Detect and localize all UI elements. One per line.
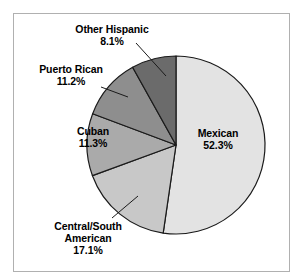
- slice-label-cuban: Cuban 11.3%: [62, 126, 124, 150]
- slice-label-central-south-american-name-line2: American: [32, 233, 144, 245]
- slice-label-other-hispanic-pct: 8.1%: [60, 36, 164, 48]
- slice-label-mexican-pct: 52.3%: [182, 140, 254, 152]
- slice-label-central-south-american: Central/South American 17.1%: [32, 221, 144, 256]
- slice-label-cuban-pct: 11.3%: [62, 138, 124, 150]
- slice-label-cuban-name: Cuban: [62, 126, 124, 138]
- slice-label-puerto-rican-pct: 11.2%: [22, 76, 120, 88]
- slice-label-mexican: Mexican 52.3%: [182, 128, 254, 152]
- slice-label-other-hispanic-name: Other Hispanic: [60, 24, 164, 36]
- slice-label-central-south-american-pct: 17.1%: [32, 245, 144, 257]
- slice-label-central-south-american-name-line1: Central/South: [32, 221, 144, 233]
- pie-chart-figure: Other Hispanic 8.1% Puerto Rican 11.2% C…: [0, 0, 302, 280]
- slice-label-other-hispanic: Other Hispanic 8.1%: [60, 24, 164, 48]
- slice-label-puerto-rican-name: Puerto Rican: [22, 64, 120, 76]
- slice-label-mexican-name: Mexican: [182, 128, 254, 140]
- slice-label-puerto-rican: Puerto Rican 11.2%: [22, 64, 120, 88]
- chart-plot-area: Other Hispanic 8.1% Puerto Rican 11.2% C…: [0, 0, 302, 280]
